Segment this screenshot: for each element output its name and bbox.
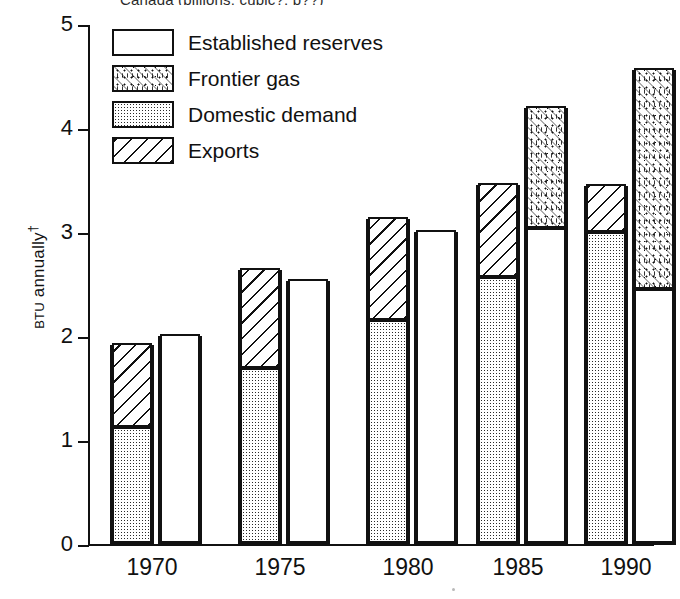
legend-item-domestic-demand[interactable]: Domestic demand <box>112 99 383 129</box>
y-axis-title: BTU annually† <box>25 177 49 377</box>
bar-segment-1975-domestic-demand[interactable] <box>240 368 280 543</box>
bar-segment-1990-established-reserves[interactable] <box>634 289 674 543</box>
x-axis-label-1985: 1985 <box>458 556 578 579</box>
bar-segment-1970-domestic-demand[interactable] <box>112 427 152 543</box>
y-axis-tick-mark-5 <box>78 25 89 27</box>
bar-segment-1970-exports[interactable] <box>112 343 152 426</box>
y-axis-tick-label-2: 2 <box>45 325 73 347</box>
y-axis-tick-mark-4 <box>78 129 89 131</box>
y-axis-tick-label-4: 4 <box>45 117 73 139</box>
bar-1980-demand[interactable] <box>366 219 410 545</box>
bar-segment-1980-established-reserves[interactable] <box>416 230 456 543</box>
scan-artifact-speck <box>452 588 455 591</box>
bar-segment-1980-exports[interactable] <box>368 217 408 320</box>
bar-segment-1985-domestic-demand[interactable] <box>478 277 518 543</box>
legend-label-domestic-demand: Domestic demand <box>188 104 357 125</box>
x-axis-label-1970: 1970 <box>92 556 212 579</box>
y-axis-title-footnote-marker: † <box>25 225 40 232</box>
chart-legend: Established reserves Frontier gas Domest… <box>112 27 383 171</box>
y-axis-tick-mark-1 <box>78 441 89 443</box>
y-axis-tick-label-3: 3 <box>45 221 73 243</box>
bar-segment-1985-exports[interactable] <box>478 183 518 277</box>
legend-label-exports: Exports <box>188 140 259 161</box>
y-axis-line <box>88 25 90 546</box>
bar-segment-1990-frontier-gas[interactable] <box>634 68 674 290</box>
x-axis-label-1980: 1980 <box>348 556 468 579</box>
bar-1970-demand[interactable] <box>110 345 154 545</box>
legend-swatch-domestic-demand-icon <box>112 101 174 128</box>
x-axis-label-1990: 1990 <box>566 556 680 579</box>
y-axis-tick-mark-2 <box>78 337 89 339</box>
bar-segment-1975-established-reserves[interactable] <box>288 279 328 543</box>
y-axis-title-unit: BTU <box>32 302 47 329</box>
y-axis-tick-label-1: 1 <box>45 429 73 451</box>
bar-1970-supply[interactable] <box>158 336 202 545</box>
bar-segment-1970-established-reserves[interactable] <box>160 334 200 543</box>
y-axis-tick-label-5: 5 <box>45 13 73 35</box>
bar-segment-1980-domestic-demand[interactable] <box>368 320 408 543</box>
bar-1975-demand[interactable] <box>238 270 282 545</box>
bar-segment-1985-established-reserves[interactable] <box>526 228 566 543</box>
legend-item-exports[interactable]: Exports <box>112 135 383 165</box>
bar-1975-supply[interactable] <box>286 281 330 545</box>
bar-1990-supply[interactable] <box>632 70 676 545</box>
legend-label-frontier-gas: Frontier gas <box>188 68 300 89</box>
bar-1985-demand[interactable] <box>476 185 520 545</box>
y-axis-tick-label-0: 0 <box>45 533 73 555</box>
bar-1980-supply[interactable] <box>414 232 458 545</box>
bar-1985-supply[interactable] <box>524 108 568 545</box>
legend-item-established-reserves[interactable]: Established reserves <box>112 27 383 57</box>
legend-item-frontier-gas[interactable]: Frontier gas <box>112 63 383 93</box>
y-axis-title-text: annually <box>29 232 48 302</box>
legend-label-established-reserves: Established reserves <box>188 32 383 53</box>
bar-1990-demand[interactable] <box>584 186 628 545</box>
legend-swatch-exports-icon <box>112 137 174 164</box>
y-axis-tick-mark-3 <box>78 233 89 235</box>
bar-segment-1990-domestic-demand[interactable] <box>586 232 626 543</box>
bar-segment-1975-exports[interactable] <box>240 268 280 368</box>
bar-segment-1985-frontier-gas[interactable] <box>526 106 566 228</box>
bar-segment-1990-exports[interactable] <box>586 184 626 232</box>
y-axis-tick-mark-0 <box>78 545 89 547</box>
legend-swatch-frontier-gas-icon <box>112 65 174 92</box>
legend-swatch-established-reserves-icon <box>112 29 174 56</box>
x-axis-label-1975: 1975 <box>220 556 340 579</box>
